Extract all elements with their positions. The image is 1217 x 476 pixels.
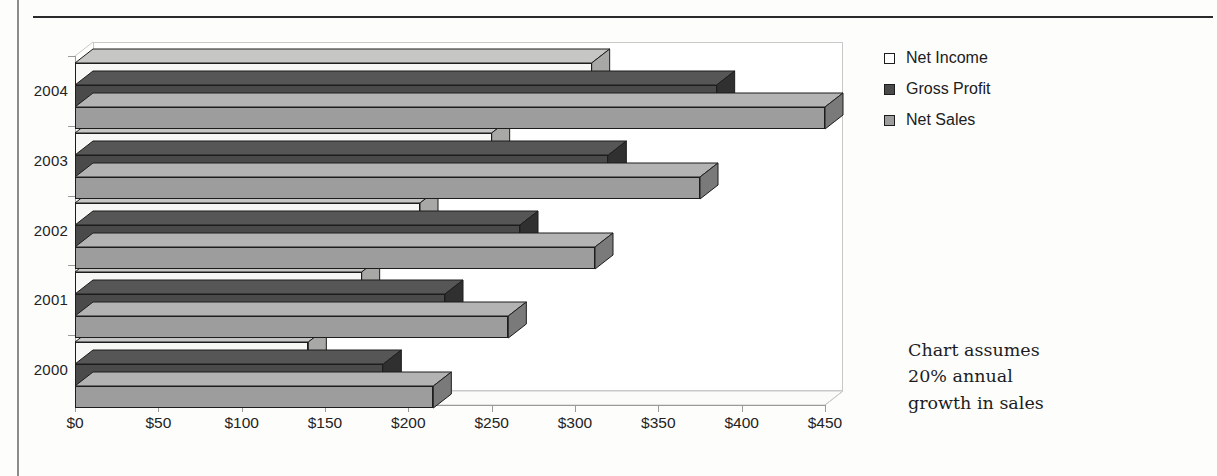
- legend-swatch-icon: [884, 115, 895, 126]
- legend-item-gross-profit[interactable]: Gross Profit: [884, 77, 990, 101]
- y-axis-label-2002: 2002: [24, 222, 68, 239]
- annotation-line-3: growth in sales: [908, 390, 1158, 416]
- bar-front-face: [75, 247, 595, 269]
- y-axis-label-2001: 2001: [24, 291, 68, 308]
- x-axis-tick-label: $0: [40, 414, 110, 432]
- y-axis-label-2003: 2003: [24, 152, 68, 169]
- x-axis-tick-label: $400: [707, 414, 777, 432]
- chart-legend: Net IncomeGross ProfitNet Sales: [884, 46, 990, 139]
- bar-front-face: [75, 177, 700, 199]
- bar-net-sales-2002: [75, 247, 595, 269]
- legend-item-label: Net Sales: [906, 111, 975, 129]
- growth-bar-chart: 20002001200220032004 $0$50$100$150$200$2…: [0, 0, 1217, 476]
- y-axis-label-2000: 2000: [24, 361, 68, 378]
- bar-net-sales-2000: [75, 386, 433, 408]
- x-axis-tick: [658, 405, 659, 412]
- bar-net-sales-2003: [75, 177, 700, 199]
- bar-front-face: [75, 386, 433, 408]
- x-axis-tick: [575, 405, 576, 412]
- annotation-line-2: 20% annual: [908, 363, 1158, 389]
- x-axis-tick: [742, 405, 743, 412]
- chart-page: 20002001200220032004 $0$50$100$150$200$2…: [0, 0, 1217, 476]
- bar-net-sales-2001: [75, 316, 508, 338]
- x-axis-tick-label: $250: [457, 414, 527, 432]
- legend-item-net-sales[interactable]: Net Sales: [884, 108, 990, 132]
- legend-item-label: Gross Profit: [906, 80, 990, 98]
- legend-item-label: Net Income: [906, 49, 988, 67]
- x-axis-tick-label: $100: [207, 414, 277, 432]
- x-axis-tick: [492, 405, 493, 412]
- bar-front-face: [75, 107, 825, 129]
- x-axis-tick: [825, 405, 826, 412]
- x-axis-tick-label: $350: [623, 414, 693, 432]
- x-axis-tick-label: $50: [123, 414, 193, 432]
- x-axis-tick-label: $200: [373, 414, 443, 432]
- legend-item-net-income[interactable]: Net Income: [884, 46, 990, 70]
- x-axis-tick-label: $450: [790, 414, 860, 432]
- bar-front-face: [75, 316, 508, 338]
- chart-annotation: Chart assumes 20% annual growth in sales: [908, 337, 1158, 416]
- y-axis-label-2004: 2004: [24, 82, 68, 99]
- x-axis-tick-label: $300: [540, 414, 610, 432]
- bar-net-sales-2004: [75, 107, 825, 129]
- legend-swatch-icon: [884, 53, 895, 64]
- x-axis-tick-label: $150: [290, 414, 360, 432]
- annotation-line-1: Chart assumes: [908, 337, 1158, 363]
- legend-swatch-icon: [884, 84, 895, 95]
